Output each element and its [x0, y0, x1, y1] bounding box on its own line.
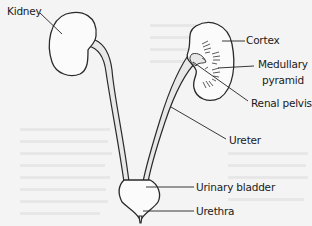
urinary-bladder: [119, 180, 159, 218]
label-kidney: Kidney: [7, 5, 42, 17]
left-kidney: [49, 12, 96, 75]
right-ureter: [143, 50, 198, 182]
label-cortex: Cortex: [246, 34, 279, 46]
label-renal-pelvis: Renal pelvis: [251, 97, 312, 109]
label-urinary-bladder: Urinary bladder: [196, 181, 275, 193]
label-ureter: Ureter: [229, 134, 261, 146]
left-ureter: [88, 40, 129, 182]
label-medullary-line2: pyramid: [262, 74, 304, 86]
label-urethra: Urethra: [196, 205, 234, 217]
label-medullary-line1: Medullary: [258, 58, 308, 70]
urethra: [139, 216, 142, 223]
